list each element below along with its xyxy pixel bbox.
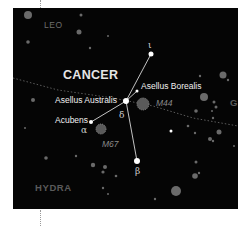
guide-line-top [40, 0, 41, 8]
cluster-m44 [137, 98, 149, 110]
star-faint [170, 130, 173, 133]
star-beta [134, 158, 140, 164]
label-leo: LEO [44, 21, 63, 30]
star-map: LEO CANCER HYDRA G ι Asellus Borealis M4… [13, 8, 238, 209]
label-beta: β [135, 167, 140, 176]
star-asellus-borealis [136, 90, 139, 93]
label-hydra: HYDRA [35, 183, 72, 193]
label-delta: δ [119, 111, 124, 120]
label-acubens: Acubens [55, 116, 88, 125]
label-m44: M44 [156, 99, 173, 108]
guide-line-bottom [40, 210, 41, 226]
label-iota: ι [148, 41, 152, 50]
star-map-graphics [13, 8, 238, 209]
cluster-m67 [96, 124, 106, 134]
star-acubens [89, 120, 93, 124]
star-asellus-australis [123, 98, 129, 104]
label-m67: M67 [102, 140, 119, 149]
label-alpha: α [81, 126, 87, 135]
label-cancer: CANCER [63, 69, 118, 82]
star-iota [149, 52, 154, 57]
label-asellus-borealis: Asellus Borealis [141, 82, 201, 91]
label-gemini-clipped: G [230, 98, 238, 108]
background-stars [24, 11, 235, 200]
label-asellus-australis: Asellus Australis [55, 96, 117, 105]
